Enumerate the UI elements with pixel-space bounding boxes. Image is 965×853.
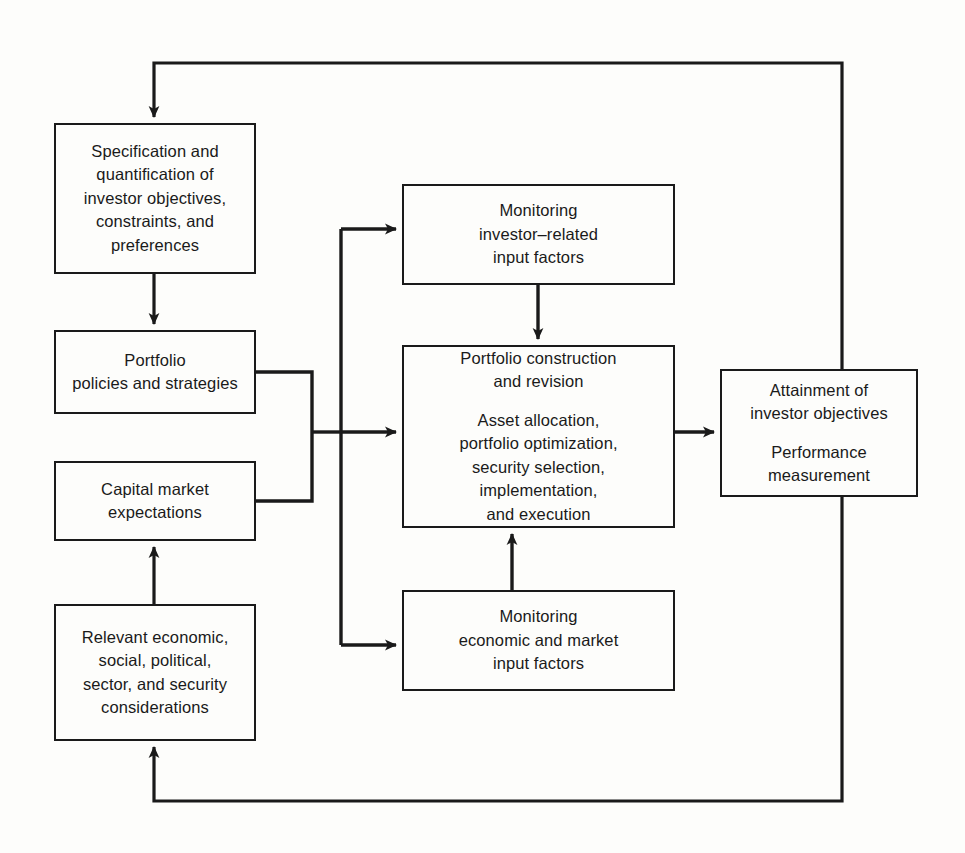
capital-market-line-1: Capital market bbox=[101, 478, 209, 501]
relevant-line-2: social, political, bbox=[99, 649, 212, 672]
relevant-line-3: sector, and security bbox=[83, 673, 227, 696]
portfolio-policies-box[interactable]: Portfolio policies and strategies bbox=[54, 330, 256, 414]
monitoring-economic-line-2: economic and market bbox=[459, 629, 619, 652]
construction-line-3: Asset allocation, bbox=[478, 409, 600, 432]
monitoring-economic-box[interactable]: Monitoring economic and market input fac… bbox=[402, 590, 675, 691]
attainment-box[interactable]: Attainment of investor objectives Perfor… bbox=[720, 369, 918, 497]
construction-line-5: security selection, bbox=[472, 456, 605, 479]
relevant-line-1: Relevant economic, bbox=[82, 626, 229, 649]
specification-line-1: Specification and bbox=[91, 140, 218, 163]
attainment-line-3: Performance bbox=[771, 441, 867, 464]
construction-line-6: implementation, bbox=[480, 479, 598, 502]
specification-box[interactable]: Specification and quantification of inve… bbox=[54, 123, 256, 274]
monitoring-investor-line-2: investor–related bbox=[479, 223, 598, 246]
monitoring-investor-line-3: input factors bbox=[493, 246, 584, 269]
specification-line-5: preferences bbox=[111, 234, 199, 257]
construction-line-2: and revision bbox=[493, 370, 583, 393]
specification-line-2: quantification of bbox=[96, 163, 213, 186]
attainment-line-2: investor objectives bbox=[750, 402, 888, 425]
attainment-line-1: Attainment of bbox=[770, 379, 869, 402]
capital-market-line-2: expectations bbox=[108, 501, 202, 524]
portfolio-construction-box[interactable]: Portfolio construction and revision Asse… bbox=[402, 345, 675, 528]
relevant-line-4: considerations bbox=[101, 696, 209, 719]
monitoring-economic-line-3: input factors bbox=[493, 652, 584, 675]
specification-line-4: constraints, and bbox=[96, 210, 214, 233]
monitoring-economic-line-1: Monitoring bbox=[499, 605, 577, 628]
flowchart-diagram: Specification and quantification of inve… bbox=[0, 0, 965, 853]
construction-line-1: Portfolio construction bbox=[460, 347, 616, 370]
policies-capital-bracket bbox=[256, 372, 341, 501]
monitoring-investor-box[interactable]: Monitoring investor–related input factor… bbox=[402, 184, 675, 285]
construction-line-7: and execution bbox=[486, 503, 590, 526]
specification-line-3: investor objectives, bbox=[84, 187, 226, 210]
construction-line-4: portfolio optimization, bbox=[459, 432, 617, 455]
capital-market-box[interactable]: Capital market expectations bbox=[54, 461, 256, 541]
relevant-considerations-box[interactable]: Relevant economic, social, political, se… bbox=[54, 604, 256, 741]
monitoring-investor-line-1: Monitoring bbox=[499, 199, 577, 222]
portfolio-policies-line-1: Portfolio bbox=[124, 349, 185, 372]
portfolio-policies-line-2: policies and strategies bbox=[72, 372, 238, 395]
attainment-line-4: measurement bbox=[768, 464, 870, 487]
